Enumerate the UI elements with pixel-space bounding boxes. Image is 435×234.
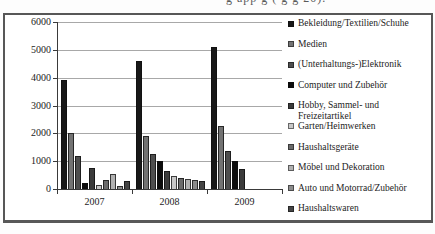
bar [164, 171, 170, 189]
y-axis-label: 1000 [11, 156, 51, 166]
bar [157, 161, 163, 189]
y-axis-label: 6000 [11, 17, 51, 27]
legend-label: Auto und Motorrad/Zubehör [298, 183, 407, 194]
x-axis-label: 2007 [73, 196, 117, 207]
legend-item: (Unterhaltungs-)Elektronik [288, 59, 430, 80]
chart-figure: 6000500040003000200010000200720082009 Be… [3, 13, 433, 223]
bar [185, 179, 191, 189]
bar [211, 47, 217, 189]
bar [124, 181, 130, 189]
legend-item: Bekleidung/Textilien/Schuhe [288, 18, 430, 39]
legend-swatch-icon [288, 103, 294, 109]
bar [218, 126, 224, 189]
legend-swatch-icon [288, 21, 294, 27]
legend-swatch-icon [288, 123, 294, 129]
legend-swatch-icon [288, 41, 294, 47]
bar [143, 136, 149, 189]
bar [68, 133, 74, 189]
bar [61, 80, 67, 189]
bar [89, 168, 95, 189]
y-axis-label: 3000 [11, 101, 51, 111]
x-axis-tick [282, 190, 283, 194]
y-axis-label: 4000 [11, 73, 51, 83]
y-axis-label: 2000 [11, 128, 51, 138]
legend-swatch-icon [288, 62, 294, 68]
legend-item: Haushaltswaren [288, 203, 430, 224]
x-axis-line [57, 189, 283, 190]
legend-item: Garten/Heimwerken [288, 121, 430, 142]
x-axis-tick [132, 190, 133, 194]
legend-label: Möbel und Dekoration [298, 162, 385, 173]
bar-group [207, 22, 282, 189]
x-axis-tick [207, 190, 208, 194]
bar [96, 185, 102, 189]
bar [82, 183, 88, 189]
x-axis-label: 2009 [223, 196, 267, 207]
legend-label: Garten/Heimwerken [298, 121, 376, 132]
clipped-caption-text: g app g ( g g 20). [226, 0, 432, 6]
bar [192, 180, 198, 189]
legend-label: Hobby, Sammel- und Freizeitartikel [298, 100, 430, 121]
bar [171, 176, 177, 189]
chart-legend: Bekleidung/Textilien/SchuheMedien(Unterh… [288, 18, 430, 224]
x-axis-tick [57, 190, 58, 194]
bar [232, 161, 238, 189]
legend-item: Möbel und Dekoration [288, 162, 430, 183]
bar [110, 174, 116, 189]
bar [239, 169, 245, 189]
bar [199, 181, 205, 189]
legend-swatch-icon [288, 82, 294, 88]
x-axis-label: 2008 [148, 196, 192, 207]
bar-group [57, 22, 132, 189]
legend-swatch-icon [288, 165, 294, 171]
bar [75, 156, 81, 189]
legend-label: (Unterhaltungs-)Elektronik [298, 59, 401, 70]
legend-label: Medien [298, 39, 327, 50]
bar [136, 61, 142, 189]
bar-group [132, 22, 207, 189]
legend-swatch-icon [288, 185, 294, 191]
bar [150, 154, 156, 189]
y-axis-label: 5000 [11, 45, 51, 55]
bar [103, 180, 109, 189]
y-axis-label: 0 [11, 184, 51, 194]
legend-item: Hobby, Sammel- und Freizeitartikel [288, 100, 430, 121]
legend-item: Haushaltsgeräte [288, 142, 430, 163]
bar [178, 178, 184, 189]
legend-label: Haushaltsgeräte [298, 142, 359, 153]
bar [225, 151, 231, 189]
legend-swatch-icon [288, 206, 294, 212]
legend-item: Computer und Zubehör [288, 80, 430, 101]
bar [117, 186, 123, 189]
legend-swatch-icon [288, 144, 294, 150]
legend-item: Medien [288, 39, 430, 60]
legend-item: Auto und Motorrad/Zubehör [288, 183, 430, 204]
clipped-caption: g app g ( g g 20). [226, 0, 432, 6]
legend-label: Bekleidung/Textilien/Schuhe [298, 18, 409, 29]
legend-label: Haushaltswaren [298, 203, 359, 214]
legend-label: Computer und Zubehör [298, 80, 387, 91]
